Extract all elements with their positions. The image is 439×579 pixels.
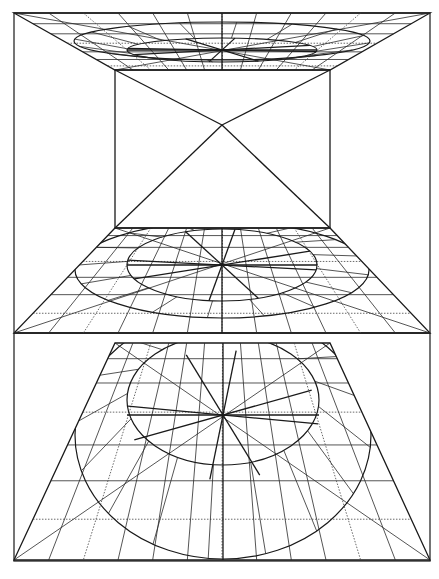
ring-tie [296,29,337,42]
grid-converging [294,343,361,560]
ring-tie [207,301,212,318]
grid-converging [187,343,204,560]
ring-tie [81,275,131,283]
grid-converging [83,228,150,333]
ring-tie [231,22,236,38]
grid-converging [294,13,361,70]
diagonal-line [14,228,330,333]
ring-tie [233,312,238,336]
grid-converging [276,343,326,560]
ring-tie [249,299,264,315]
ring-tie [180,224,195,230]
ring-tie [76,261,128,265]
grid-converging [83,343,150,560]
bottom-floor-trapezoid [14,311,430,560]
perspective-diagram [0,0,439,579]
diagonal-line [115,228,430,333]
back-wall-rectangle [115,70,330,228]
grid-converging [153,228,187,333]
grid-converging [83,13,150,70]
perspective-drawing [0,0,439,579]
diagonal-line [115,13,430,70]
grid-converging [240,343,256,560]
ring-tie [108,288,148,301]
ring-tie [317,269,369,275]
ring-tie [267,24,292,39]
ring-tie [306,50,353,56]
ring-tie [108,441,148,513]
grid-converging [294,228,361,333]
grid-converging [258,343,291,560]
ring-tie [152,297,177,313]
ring-tie [306,282,352,293]
wall-rectangle [115,70,330,228]
top-ceiling-trapezoid [14,13,430,70]
ring-tie [129,339,162,350]
ring-tie [296,240,336,243]
ring-tie [308,431,354,494]
diagonal-line [14,13,330,70]
wall-diagonal [115,70,222,125]
middle-floor-trapezoid [14,222,430,333]
wall-diagonal [222,125,330,228]
ring-tie [180,316,195,337]
ring-tie [208,465,213,559]
wall-diagonal [222,70,330,125]
ring-tie [153,457,178,544]
ring-tie [76,394,128,423]
ring-tie [315,381,365,399]
grid-converging [258,228,291,333]
diagonal-line [115,343,430,560]
wall-diagonal [115,125,222,228]
ring-tie [268,326,293,343]
